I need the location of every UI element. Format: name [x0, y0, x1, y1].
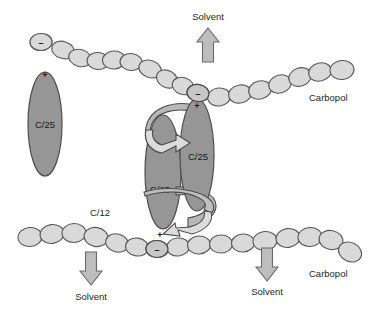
- bead: [17, 226, 43, 247]
- bead: [62, 223, 87, 243]
- bead: [307, 60, 334, 83]
- carbopol-label-right: Carbopol: [309, 92, 348, 103]
- figure-canvas: – + C/25 C/25 + C/25 – +: [0, 0, 369, 311]
- bead: [209, 235, 233, 254]
- bead: [187, 235, 211, 255]
- bead: [83, 226, 110, 249]
- molecule-label-c25-center-right: C/25: [188, 151, 208, 162]
- arrow-down-icon: [256, 248, 278, 281]
- bead: [207, 87, 232, 107]
- charge-minus-top-center: –: [195, 89, 200, 99]
- charge-plus-bottom-center: +: [157, 230, 162, 240]
- solvent-arrow-bottom-left: [80, 252, 102, 285]
- bead: [275, 227, 301, 249]
- bead: [39, 223, 65, 245]
- bead: [231, 233, 255, 253]
- charge-minus-bottom-center: –: [154, 245, 159, 255]
- solvent-label-top: Solvent: [192, 11, 224, 22]
- solvent-arrow-bottom-right: [256, 248, 278, 281]
- bead: [166, 237, 191, 257]
- carbopol-label-bottom-right: Carbopol: [309, 268, 348, 279]
- c12-label: C/12: [90, 207, 110, 218]
- solvent-label-bottom-right: Solvent: [251, 286, 283, 297]
- charge-plus-top-left: +: [42, 70, 47, 80]
- bead: [329, 59, 355, 80]
- charge-minus-top-left: –: [38, 38, 43, 48]
- charge-plus-top-center: +: [194, 101, 199, 111]
- arrow-up-icon: [197, 28, 219, 62]
- carbopol-surfactant-diagram: – + C/25 C/25 + C/25 – +: [0, 0, 369, 311]
- solvent-label-bottom-left: Solvent: [75, 291, 107, 302]
- arrow-down-icon: [80, 252, 102, 285]
- molecule-label-c25-left: C/25: [35, 119, 55, 130]
- solvent-arrow-top: [197, 28, 219, 62]
